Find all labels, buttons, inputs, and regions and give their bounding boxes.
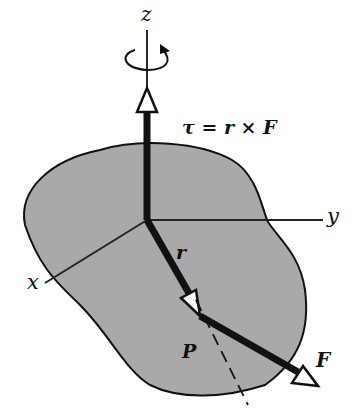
position-vector-label: r <box>176 243 186 262</box>
force-label: F <box>316 350 330 370</box>
torque-diagram: z τ = r × F y x r P F <box>0 0 356 415</box>
point-label: P <box>182 342 196 361</box>
y-axis-label: y <box>327 206 339 227</box>
diagram-canvas <box>0 0 356 415</box>
torque-arrowhead-icon <box>137 88 157 112</box>
torque-equation-label: τ = r × F <box>182 118 277 137</box>
x-axis-label: x <box>27 272 39 293</box>
z-axis-label: z <box>141 4 152 24</box>
